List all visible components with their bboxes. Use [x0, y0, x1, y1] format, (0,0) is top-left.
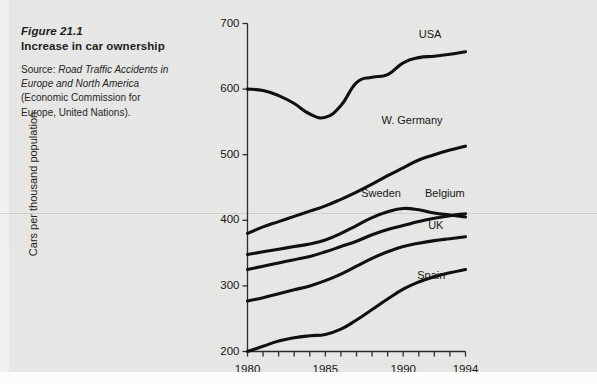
figure-caption: Figure 21.1 Increase in car ownership So…	[21, 24, 171, 120]
source-rest: (Economic Commission for Europe, United …	[21, 92, 140, 117]
y-tick-label: 400	[206, 213, 240, 225]
figure-title: Increase in car ownership	[21, 39, 171, 54]
series-line-usa	[248, 52, 466, 118]
source-prefix: Source:	[21, 64, 58, 75]
page-bottom-margin	[0, 372, 597, 384]
series-label-spain: Spain	[417, 269, 445, 281]
series-line-spain	[248, 270, 466, 352]
y-tick-label: 700	[206, 17, 240, 29]
figure-source: Source: Road Traffic Accidents in Europe…	[21, 63, 171, 120]
series-line-sweden	[248, 208, 466, 254]
y-tick-label: 600	[206, 82, 240, 94]
figure-number: Figure 21.1	[21, 24, 171, 39]
y-tick-label: 500	[206, 148, 240, 160]
series-label-usa: USA	[419, 28, 442, 40]
series-label-belgium: Belgium	[425, 187, 465, 199]
series-label-uk: UK	[428, 219, 443, 231]
series-label-sweden: Sweden	[361, 187, 401, 199]
scanned-figure-page: Figure 21.1 Increase in car ownership So…	[0, 0, 597, 384]
series-label-w-germany: W. Germany	[381, 114, 442, 126]
y-tick-label: 300	[206, 279, 240, 291]
y-tick-label: 200	[206, 345, 240, 357]
